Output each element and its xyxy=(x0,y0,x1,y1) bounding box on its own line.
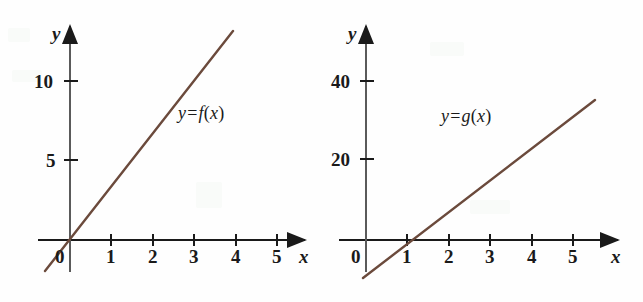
y-tick-label: 5 xyxy=(46,151,56,170)
curve-label-close-paren: ) xyxy=(485,106,491,126)
x-tick-label: 5 xyxy=(272,247,282,266)
origin-label: 0 xyxy=(55,247,65,266)
figure-two-line-graphs: y x 0 1 2 3 4 5 5 10 y=f(x) xyxy=(0,0,643,302)
curve-label-arg: x xyxy=(477,106,485,126)
curve-label-equals: = xyxy=(186,103,198,123)
curve-label-close-paren: ) xyxy=(218,103,224,123)
chart-panel-f: y x 0 1 2 3 4 5 5 10 y=f(x) xyxy=(0,0,322,302)
curve-label-arg: x xyxy=(210,103,218,123)
curve-label-f: y=f(x) xyxy=(178,104,224,122)
curve-label-lhs: y xyxy=(441,106,449,126)
chart-canvas-g xyxy=(321,0,643,302)
curve-f xyxy=(45,31,233,271)
curve-label-lhs: y xyxy=(178,103,186,123)
y-axis-label: y xyxy=(52,24,60,43)
curve-label-fname: g xyxy=(462,106,471,126)
y-tick-label: 20 xyxy=(331,150,350,169)
x-tick-label: 2 xyxy=(148,247,158,266)
origin-label: 0 xyxy=(351,247,361,266)
x-tick-label: 3 xyxy=(189,247,199,266)
x-tick-label: 4 xyxy=(231,247,241,266)
x-tick-label: 3 xyxy=(485,247,495,266)
x-tick-label: 2 xyxy=(444,247,454,266)
y-tick-label: 10 xyxy=(34,72,53,91)
x-tick-label: 4 xyxy=(527,247,537,266)
x-axis-label: x xyxy=(299,247,309,266)
x-axis-label: x xyxy=(611,247,621,266)
curve-label-g: y=g(x) xyxy=(441,107,491,125)
chart-panel-g: y x 0 1 2 3 4 5 20 40 y=g(x) xyxy=(321,0,643,302)
x-tick-label: 1 xyxy=(402,247,412,266)
y-axis-label: y xyxy=(348,24,356,43)
x-tick-label: 5 xyxy=(568,247,578,266)
y-tick-label: 40 xyxy=(331,72,350,91)
x-tick-label: 1 xyxy=(106,247,116,266)
curve-g xyxy=(363,100,595,278)
curve-label-equals: = xyxy=(449,106,461,126)
